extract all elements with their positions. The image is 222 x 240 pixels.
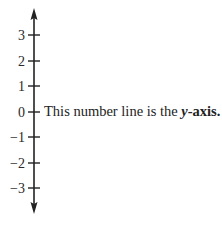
caption-suffix: -axis. [188,103,221,119]
tick-label-neg3: −3 [10,181,25,196]
tick-label-neg2: −2 [10,156,25,171]
caption-prefix: This number line is the [44,103,181,119]
tick-label-neg1: −1 [10,130,25,145]
tick-label-2: 2 [18,54,25,69]
tick-label-1: 1 [18,79,25,94]
tick-label-0: 0 [18,105,25,120]
tick-label-3: 3 [18,28,25,43]
axis-caption: This number line is the y-axis. [44,103,220,120]
